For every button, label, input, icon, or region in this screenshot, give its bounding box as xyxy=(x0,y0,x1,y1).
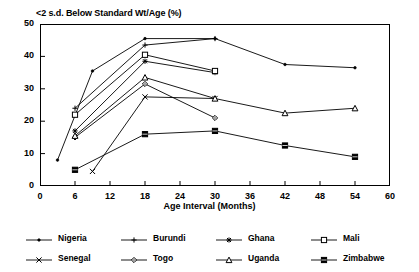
data-point-marker-open-square xyxy=(72,112,77,117)
data-point-marker-triangle xyxy=(142,75,148,81)
data-point-marker-filled-square xyxy=(352,154,357,159)
data-point-marker-open-square xyxy=(142,52,147,57)
legend-label: Uganda xyxy=(248,253,279,263)
x-tick-label: 48 xyxy=(308,191,332,201)
legend-row: SenegalTogoUgandaZimbabwe xyxy=(24,248,404,268)
legend-marker-diamond-icon xyxy=(119,252,149,264)
legend-label: Togo xyxy=(153,253,173,263)
data-point-marker-diamond xyxy=(131,257,136,262)
series-nigeria xyxy=(56,37,356,161)
data-point-marker-plus xyxy=(131,237,136,242)
legend-label: Mali xyxy=(343,233,360,243)
legend-marker-triangle-icon xyxy=(214,252,244,264)
data-point-marker-dot xyxy=(38,239,41,242)
legend-label: Nigeria xyxy=(58,233,87,243)
legend-item-zimbabwe[interactable]: Zimbabwe xyxy=(309,248,404,268)
legend-label: Zimbabwe xyxy=(343,253,385,263)
data-point-marker-diamond xyxy=(212,115,217,120)
legend-item-uganda[interactable]: Uganda xyxy=(214,248,309,268)
data-point-marker-asterisk xyxy=(226,237,231,242)
data-point-marker-filled-square xyxy=(212,128,217,133)
y-tick-label: 40 xyxy=(12,50,34,60)
legend-marker-dot-icon xyxy=(24,232,54,244)
data-point-marker-dot xyxy=(354,66,357,69)
data-point-marker-dot xyxy=(144,37,147,40)
legend-item-nigeria[interactable]: Nigeria xyxy=(24,228,119,248)
x-tick-label: 54 xyxy=(343,191,367,201)
data-point-marker-open-square xyxy=(212,68,217,73)
y-tick-label: 50 xyxy=(12,18,34,28)
data-point-marker-filled-square xyxy=(282,143,287,148)
legend-marker-x-icon xyxy=(24,252,54,264)
data-point-marker-dot xyxy=(56,159,59,162)
data-point-marker-open-square xyxy=(321,237,326,242)
legend-marker-asterisk-icon xyxy=(214,232,244,244)
x-tick-label: 18 xyxy=(133,191,157,201)
data-point-marker-filled-square xyxy=(72,167,77,172)
series-zimbabwe xyxy=(72,128,357,172)
legend-item-senegal[interactable]: Senegal xyxy=(24,248,119,268)
chart-legend: NigeriaBurundiGhanaMaliSenegalTogoUganda… xyxy=(24,228,404,268)
x-tick-label: 36 xyxy=(238,191,262,201)
data-point-marker-plus xyxy=(212,36,217,41)
chart-figure: <2 s.d. Below Standard Wt/Age (%) 010203… xyxy=(0,0,419,272)
x-tick-label: 42 xyxy=(273,191,297,201)
x-tick-label: 30 xyxy=(203,191,227,201)
legend-label: Ghana xyxy=(248,233,274,243)
legend-label: Burundi xyxy=(153,233,186,243)
x-tick-label: 60 xyxy=(378,191,402,201)
x-tick-label: 12 xyxy=(98,191,122,201)
legend-marker-filled-square-icon xyxy=(309,252,339,264)
x-tick-label: 0 xyxy=(28,191,52,201)
legend-item-ghana[interactable]: Ghana xyxy=(214,228,309,248)
legend-item-togo[interactable]: Togo xyxy=(119,248,214,268)
data-point-marker-dot xyxy=(284,63,287,66)
y-tick-label: 20 xyxy=(12,115,34,125)
data-point-marker-x xyxy=(90,169,95,174)
legend-marker-open-square-icon xyxy=(309,232,339,244)
y-tick-label: 30 xyxy=(12,83,34,93)
data-point-marker-dot xyxy=(91,70,94,73)
data-point-marker-filled-square xyxy=(321,257,326,262)
legend-marker-plus-icon xyxy=(119,232,149,244)
x-axis-title: Age Interval (Months) xyxy=(0,201,419,211)
y-tick-label: 0 xyxy=(12,180,34,190)
legend-row: NigeriaBurundiGhanaMali xyxy=(24,228,404,248)
data-point-marker-asterisk xyxy=(142,59,147,64)
data-point-marker-filled-square xyxy=(142,132,147,137)
y-tick-label: 10 xyxy=(12,148,34,158)
x-tick-label: 6 xyxy=(63,191,87,201)
legend-item-mali[interactable]: Mali xyxy=(309,228,404,248)
legend-item-burundi[interactable]: Burundi xyxy=(119,228,214,248)
x-tick-label: 24 xyxy=(168,191,192,201)
series-burundi xyxy=(72,36,217,111)
legend-label: Senegal xyxy=(58,253,91,263)
